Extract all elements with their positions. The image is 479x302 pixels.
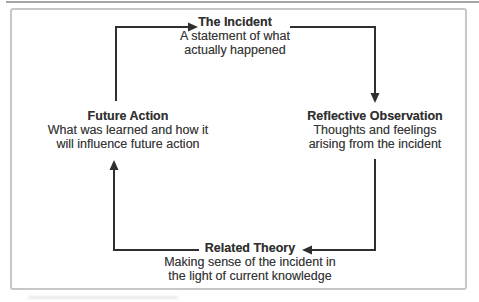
- node-title: The Incident: [154, 15, 316, 29]
- node-title: Future Action: [32, 109, 224, 123]
- node-the-incident: The Incident A statement of what actuall…: [154, 15, 316, 57]
- node-description-line: actually happened: [154, 43, 316, 57]
- arrowhead-down-icon: [371, 93, 380, 103]
- node-description-line: the light of current knowledge: [159, 269, 341, 283]
- scanned-diagram-page: The Incident A statement of what actuall…: [0, 0, 479, 302]
- node-description-line: Making sense of the incident in: [159, 255, 341, 269]
- node-description-line: What was learned and how it: [32, 123, 224, 137]
- arrow-line: [114, 169, 199, 250]
- node-future-action: Future Action What was learned and how i…: [32, 109, 224, 151]
- node-title: Related Theory: [159, 241, 341, 255]
- node-title: Reflective Observation: [283, 109, 467, 123]
- scan-artifact-smudge: [28, 296, 178, 299]
- node-description-line: A statement of what: [154, 29, 316, 43]
- arrow-line: [311, 159, 375, 250]
- node-related-theory: Related Theory Making sense of the incid…: [159, 241, 341, 283]
- node-description-line: Thoughts and feelings: [283, 123, 467, 137]
- node-description-line: will influence future action: [32, 137, 224, 151]
- arrow-related-to-future: [110, 160, 200, 250]
- node-reflective-observation: Reflective Observation Thoughts and feel…: [283, 109, 467, 151]
- arrowhead-up-icon: [110, 160, 119, 170]
- node-description-line: arising from the incident: [283, 137, 467, 151]
